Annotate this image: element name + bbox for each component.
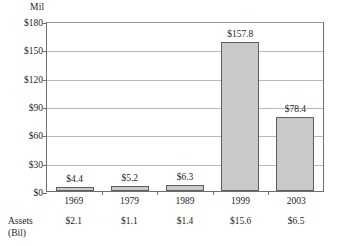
y-axis-tick-label: $120 <box>24 75 43 85</box>
assets-caption-line-2: (Bil) <box>8 227 48 239</box>
x-axis-category-label: 1999 <box>213 195 269 207</box>
bar-cell: $6.3 <box>157 23 212 191</box>
assets-value: $6.5 <box>268 215 324 227</box>
bar[interactable] <box>276 117 314 191</box>
x-axis-category-label: 2003 <box>268 195 324 207</box>
bar-value-label: $157.8 <box>227 29 253 40</box>
x-axis-category-label: 1969 <box>46 195 102 207</box>
bar[interactable] <box>221 42 259 191</box>
y-axis-tick-label: $90 <box>29 103 43 113</box>
assets-value: $1.4 <box>157 215 213 227</box>
bar-cell: $4.4 <box>47 23 102 191</box>
assets-row-caption: Assets (Bil) <box>8 215 48 239</box>
bar[interactable] <box>56 187 94 191</box>
bar-value-label: $78.4 <box>285 104 306 115</box>
y-axis-tick-mark <box>43 193 47 194</box>
x-axis-category-label: 1979 <box>102 195 158 207</box>
bar-value-label: $6.3 <box>177 172 194 183</box>
assets-value: $1.1 <box>102 215 158 227</box>
bar-cell: $78.4 <box>268 23 323 191</box>
bars-group: $4.4$5.2$6.3$157.8$78.4 <box>47 23 323 191</box>
y-axis-tick-label: $30 <box>29 160 43 170</box>
bar-cell: $5.2 <box>102 23 157 191</box>
y-axis-tick-label: $150 <box>24 46 43 56</box>
assets-row-values: $2.1$1.1$1.4$15.6$6.5 <box>46 215 324 227</box>
x-axis-category-label: 1989 <box>157 195 213 207</box>
bar[interactable] <box>111 186 149 191</box>
y-axis-tick-label: $0 <box>34 188 44 198</box>
assets-value: $15.6 <box>213 215 269 227</box>
y-axis-tick-label: $180 <box>24 18 43 28</box>
plot-area: $180$150$120$90$60$30$0 $4.4$5.2$6.3$157… <box>46 22 324 192</box>
y-axis-unit-label: Mil <box>30 2 44 13</box>
assets-value: $2.1 <box>46 215 102 227</box>
x-axis-labels: 19691979198919992003 <box>46 195 324 207</box>
bar-cell: $157.8 <box>213 23 268 191</box>
bar-value-label: $4.4 <box>66 174 83 185</box>
bar[interactable] <box>166 185 204 191</box>
bar-value-label: $5.2 <box>121 173 138 184</box>
y-axis-tick-label: $60 <box>29 131 43 141</box>
assets-caption-line-1: Assets <box>8 215 48 227</box>
